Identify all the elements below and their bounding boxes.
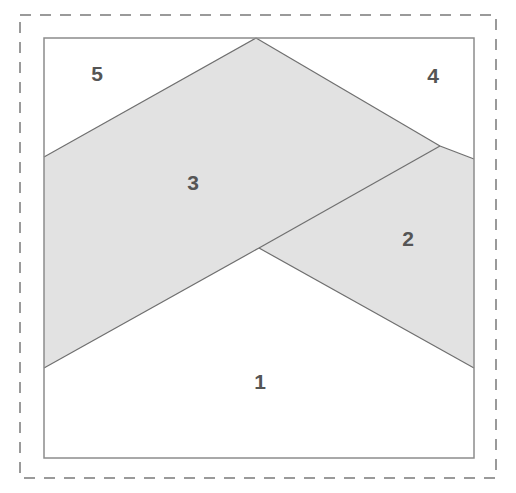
figure-canvas: 12345 — [0, 0, 516, 493]
region-label-3: 3 — [187, 171, 199, 194]
region-label-4: 4 — [427, 64, 439, 87]
region-label-5: 5 — [91, 62, 103, 85]
region-label-1: 1 — [254, 370, 266, 393]
figure-root: 12345 — [0, 0, 516, 493]
region-label-2: 2 — [402, 227, 414, 250]
